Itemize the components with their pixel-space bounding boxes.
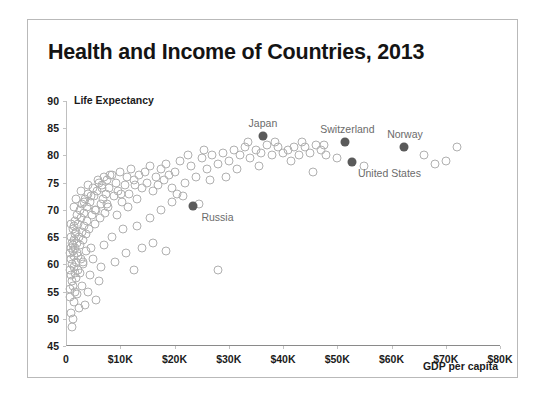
highlighted-data-point — [399, 142, 408, 151]
data-point — [129, 265, 138, 274]
data-point — [441, 156, 450, 165]
data-point-label: Japan — [249, 117, 278, 129]
data-point — [67, 219, 76, 228]
y-tick-mark — [63, 292, 66, 293]
data-point — [89, 254, 98, 263]
y-tick-mark — [63, 264, 66, 265]
data-point — [222, 173, 231, 182]
data-point — [87, 192, 96, 201]
data-point — [137, 244, 146, 253]
data-point — [184, 151, 193, 160]
y-tick-label: 50 — [47, 313, 59, 325]
data-point — [246, 154, 255, 163]
data-point — [287, 156, 296, 165]
y-tick-mark — [63, 128, 66, 129]
data-point — [308, 167, 317, 176]
data-point — [156, 205, 165, 214]
data-point — [132, 222, 141, 231]
data-point — [181, 178, 190, 187]
data-point — [213, 265, 222, 274]
data-point — [205, 175, 214, 184]
data-point — [295, 151, 304, 160]
data-point — [80, 301, 89, 310]
data-point — [83, 287, 92, 296]
x-tick-mark — [229, 346, 230, 349]
data-point — [235, 151, 244, 160]
data-point — [192, 173, 201, 182]
data-point — [97, 263, 106, 272]
data-point — [69, 203, 78, 212]
highlighted-data-point — [189, 201, 198, 210]
page-title: Health and Income of Countries, 2013 — [48, 40, 424, 65]
data-point — [99, 241, 108, 250]
data-point — [90, 205, 99, 214]
data-point — [167, 197, 176, 206]
data-point — [254, 162, 263, 171]
data-point — [91, 295, 100, 304]
data-point — [84, 181, 93, 190]
x-tick-label: $60K — [379, 353, 404, 365]
data-point — [430, 159, 439, 168]
x-tick-label: $30K — [216, 353, 241, 365]
highlighted-data-point — [258, 131, 267, 140]
highlighted-data-point — [348, 157, 357, 166]
data-point — [270, 137, 279, 146]
data-point — [173, 189, 182, 198]
data-point — [67, 322, 76, 331]
data-point — [322, 151, 331, 160]
y-tick-label: 80 — [47, 149, 59, 161]
y-tick-mark — [63, 346, 66, 347]
data-point — [117, 189, 126, 198]
data-point — [200, 146, 209, 155]
y-tick-mark — [63, 210, 66, 211]
plot-frame — [66, 101, 500, 346]
y-tick-label: 90 — [47, 95, 59, 107]
data-point — [106, 170, 115, 179]
y-tick-label: 45 — [47, 340, 59, 352]
data-point — [112, 211, 121, 220]
y-tick-mark — [63, 237, 66, 238]
data-point — [132, 195, 141, 204]
data-point — [86, 244, 95, 253]
data-point — [98, 184, 107, 193]
data-point — [186, 162, 195, 171]
data-point — [243, 137, 252, 146]
scatter-plot-area: Life Expectancy GDP per capita 455055606… — [66, 101, 500, 346]
data-point — [131, 181, 140, 190]
data-point — [197, 154, 206, 163]
data-point — [108, 233, 117, 242]
y-tick-mark — [63, 183, 66, 184]
data-point — [319, 140, 328, 149]
y-tick-mark — [63, 319, 66, 320]
data-point — [162, 246, 171, 255]
data-point — [124, 203, 133, 212]
highlighted-data-point — [341, 137, 350, 146]
x-tick-label: $20K — [162, 353, 187, 365]
data-point — [94, 276, 103, 285]
y-tick-mark — [63, 155, 66, 156]
y-axis-label: Life Expectancy — [74, 94, 154, 106]
data-point-label: Norway — [387, 128, 423, 140]
data-point — [121, 249, 130, 258]
y-tick-label: 65 — [47, 231, 59, 243]
x-tick-label: $80K — [487, 353, 512, 365]
y-tick-label: 85 — [47, 122, 59, 134]
x-tick-mark — [283, 346, 284, 349]
data-point-label: Switzerland — [320, 123, 374, 135]
x-tick-label: $40K — [270, 353, 295, 365]
data-point — [110, 257, 119, 266]
y-tick-label: 75 — [47, 177, 59, 189]
data-point — [306, 148, 315, 157]
data-point-label: Russia — [201, 211, 233, 223]
data-point — [71, 287, 80, 296]
x-tick-mark — [446, 346, 447, 349]
data-point — [170, 167, 179, 176]
x-tick-mark — [120, 346, 121, 349]
data-point — [452, 143, 461, 152]
x-tick-label: $10K — [108, 353, 133, 365]
data-point — [73, 252, 82, 261]
data-point — [232, 165, 241, 174]
data-point — [175, 156, 184, 165]
data-point — [146, 162, 155, 171]
y-tick-mark — [63, 101, 66, 102]
